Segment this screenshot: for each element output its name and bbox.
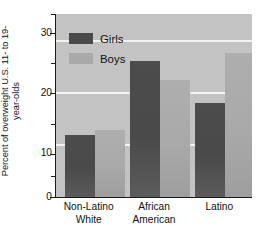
bar-boys-non-latino-white [95, 130, 125, 197]
bar-girls-non-latino-white [65, 135, 95, 197]
y-tick-major-10 [50, 154, 55, 155]
y-tick-major-30 [50, 33, 55, 34]
y-tick-minor-25 [51, 63, 55, 64]
x-label-latino: Latino [187, 201, 252, 233]
legend-label-boys: Boys [100, 53, 125, 65]
y-tick-minor-35 [51, 14, 55, 15]
y-tick-minor-15 [51, 124, 55, 125]
chart-legend: Girls Boys [69, 30, 125, 70]
bar-boys-latino [225, 53, 252, 197]
legend-item-boys: Boys [69, 50, 125, 67]
y-tick-label-30: 30 [32, 28, 52, 38]
legend-label-girls: Girls [100, 33, 123, 45]
bar-girls-latino [195, 103, 225, 197]
y-tick-minor-5 [51, 176, 55, 177]
bar-girls-african-american [130, 61, 160, 197]
x-label-non-latino-white: Non-Latino White [56, 201, 121, 233]
x-axis-spine [55, 197, 252, 198]
x-label-african-american: African American [121, 201, 186, 233]
legend-item-girls: Girls [69, 30, 125, 47]
y-tick-label-20: 20 [32, 88, 52, 98]
bar-boys-african-american [160, 80, 190, 197]
chart-figure: Percent of overweight U.S. 11- to 19- ye… [0, 0, 261, 234]
plot-area: Girls Boys [56, 14, 252, 197]
y-axis-title-container: Percent of overweight U.S. 11- to 19- ye… [0, 0, 34, 205]
x-axis-tick-labels: Non-Latino White African American Latino [56, 201, 252, 233]
y-axis-tick-labels: 30 20 10 0 [32, 0, 52, 234]
y-tick-major-20 [50, 93, 55, 94]
y-tick-label-0: 0 [32, 192, 52, 202]
legend-swatch-boys-icon [69, 53, 93, 64]
legend-swatch-girls-icon [69, 33, 93, 44]
y-tick-label-10: 10 [32, 148, 52, 158]
y-axis-title: Percent of overweight U.S. 11- to 19- ye… [0, 0, 34, 202]
